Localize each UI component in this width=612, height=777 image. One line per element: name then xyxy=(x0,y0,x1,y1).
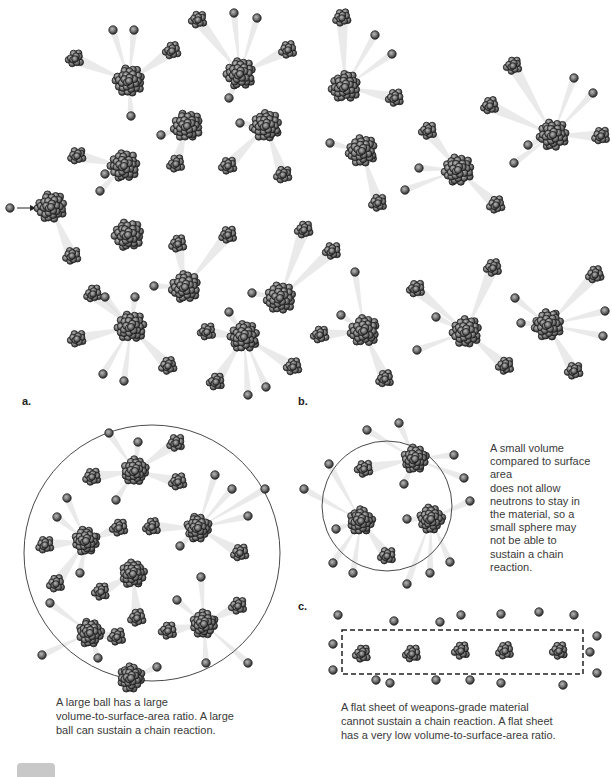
fission-fragment xyxy=(585,266,604,283)
neutron xyxy=(593,669,601,677)
neutron xyxy=(105,429,113,437)
neutron xyxy=(390,617,398,625)
fission-fragment xyxy=(406,280,424,297)
neutron xyxy=(388,50,396,58)
fission-fragment xyxy=(219,226,237,243)
fission-fragment xyxy=(354,460,373,477)
neutron xyxy=(153,663,161,671)
neutron xyxy=(334,611,342,619)
fission-fragment xyxy=(36,536,54,553)
fission-fragment xyxy=(218,157,237,174)
neutron xyxy=(244,391,252,399)
neutron xyxy=(413,346,421,354)
caption-line: A large ball has a large xyxy=(56,695,234,709)
neutron xyxy=(94,654,102,662)
neutron xyxy=(150,282,158,290)
neutron xyxy=(173,596,181,604)
uranium-nucleus xyxy=(112,65,144,96)
fission-fragment xyxy=(158,622,176,639)
uranium-nucleus xyxy=(347,315,379,346)
neutron xyxy=(497,610,505,618)
fission-fragment xyxy=(310,326,329,343)
neutron xyxy=(109,26,117,34)
neutron xyxy=(371,31,379,39)
neutron xyxy=(157,131,165,139)
neutron xyxy=(426,569,434,577)
fission-fragment xyxy=(169,235,187,253)
neutron xyxy=(53,513,61,521)
fission-fragment xyxy=(65,50,83,67)
fission-fragment xyxy=(481,97,499,114)
neutron xyxy=(466,497,474,505)
fission-fragment xyxy=(402,645,420,662)
caption-line: volume-to-surface-area ratio. A large xyxy=(56,709,234,723)
neutron xyxy=(450,451,458,459)
panel-b-caption: A small volume compared to surface area … xyxy=(490,442,612,574)
caption-line: A small volume xyxy=(490,442,612,455)
neutron xyxy=(457,611,465,619)
neutron xyxy=(202,659,210,667)
neutron xyxy=(570,611,578,619)
uranium-nucleus xyxy=(34,191,67,222)
uranium-nucleus xyxy=(111,219,144,250)
neutron xyxy=(244,512,252,520)
uranium-nucleus xyxy=(348,506,376,534)
neutron xyxy=(262,383,270,391)
caption-line: cannot sustain a chain reaction. A flat … xyxy=(341,714,556,728)
uranium-nucleus xyxy=(328,70,360,101)
fission-fragment xyxy=(128,609,147,627)
neutron xyxy=(329,559,337,567)
neutron xyxy=(446,558,454,566)
neutron xyxy=(176,542,184,550)
neutron xyxy=(236,119,244,127)
neutron xyxy=(225,308,233,316)
neutron xyxy=(99,370,107,378)
neutron xyxy=(96,187,104,195)
neutron xyxy=(395,419,403,427)
neutron xyxy=(401,186,409,194)
neutron xyxy=(570,74,578,82)
neutron xyxy=(112,496,120,504)
neutron xyxy=(63,494,71,502)
neutron xyxy=(76,569,84,577)
neutron xyxy=(586,648,594,656)
uranium-nucleus xyxy=(536,119,569,150)
uranium-nucleus xyxy=(345,135,377,167)
neutron xyxy=(127,112,135,120)
neutron xyxy=(524,141,532,149)
neutron xyxy=(244,659,252,667)
caption-line: sustain a chain xyxy=(490,548,612,561)
neutron xyxy=(599,332,607,340)
fission-fragment xyxy=(333,9,351,26)
panel-c-caption: A flat sheet of weapons-grade material c… xyxy=(341,700,556,742)
neutron xyxy=(337,311,345,319)
neutron xyxy=(517,319,525,327)
fission-fragment xyxy=(107,628,125,646)
page-tab-marker xyxy=(17,763,55,777)
neutron xyxy=(559,681,567,689)
caption-line: A flat sheet of weapons-grade material xyxy=(341,700,556,714)
neutron xyxy=(38,651,46,659)
caption-line: has a very low volume-to-surface-area ra… xyxy=(341,728,556,742)
fission-fragment xyxy=(91,583,109,600)
neutron xyxy=(415,164,423,172)
caption-line: not be able to xyxy=(490,534,612,547)
uranium-nucleus xyxy=(77,618,105,647)
panel-c-label: c. xyxy=(298,600,307,612)
neutron xyxy=(403,580,411,588)
fission-fragment xyxy=(167,155,185,172)
caption-line: ball can sustain a chain reaction. xyxy=(56,723,234,737)
neutron xyxy=(101,293,109,301)
neutron xyxy=(6,204,14,212)
neutron xyxy=(228,485,236,493)
uranium-nucleus xyxy=(227,321,260,352)
neutron xyxy=(400,480,408,488)
neutron xyxy=(436,618,444,626)
neutron xyxy=(329,640,337,648)
fission-fragment xyxy=(83,468,101,485)
uranium-nucleus xyxy=(170,110,202,140)
neutron xyxy=(329,666,337,674)
neutron xyxy=(326,139,334,147)
